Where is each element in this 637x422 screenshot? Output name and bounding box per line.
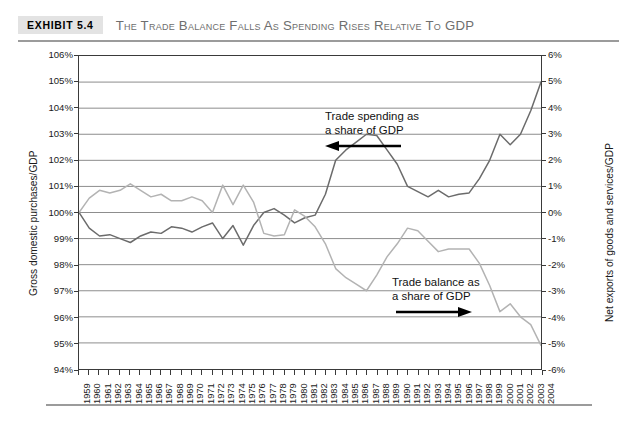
x-axis-tick-label: 1999 (494, 383, 504, 404)
x-axis-tick-label: 1991 (412, 383, 422, 404)
annotation-arrow-left-icon (323, 139, 403, 153)
x-axis-tick-label: 1979 (288, 383, 298, 404)
x-axis-tick-mark (108, 370, 109, 375)
x-axis-tick-mark (232, 370, 233, 375)
x-axis-tick-mark (253, 370, 254, 375)
x-axis-tick-label: 1976 (257, 383, 267, 404)
y-axis-left-tick-label: 94% (37, 365, 73, 375)
annotation-trade-balance-line2: a share of GDP (392, 290, 480, 304)
plot-frame (78, 55, 542, 370)
y-axis-right-tick-label: 0% (548, 208, 584, 218)
x-axis-tick-mark (356, 370, 357, 375)
x-axis-tick-mark (469, 370, 470, 375)
y-axis-right-tick-label: 2% (548, 155, 584, 165)
y-axis-right-tick-label: 6% (548, 50, 584, 60)
annotation-arrow-right-icon (394, 305, 474, 319)
x-axis-tick-mark (212, 370, 213, 375)
x-axis-tick-label: 1960 (92, 383, 102, 404)
y-axis-right-title: Net exports of goods and services/GDP (604, 143, 615, 322)
y-axis-left-tick-label: 97% (37, 286, 73, 296)
x-axis-tick-mark (170, 370, 171, 375)
y-axis-right-tick-mark (542, 55, 546, 56)
y-axis-right-tick-label: -4% (548, 313, 584, 323)
x-axis-tick-mark (459, 370, 460, 375)
y-axis-right-tick-mark (542, 291, 546, 292)
x-axis-tick-label: 1973 (226, 383, 236, 404)
x-axis-tick-label: 1966 (154, 383, 164, 404)
x-axis-tick-label: 1977 (268, 383, 278, 404)
x-axis-tick-mark (407, 370, 408, 375)
x-axis-tick-label: 1993 (433, 383, 443, 404)
x-axis-tick-label: 1990 (402, 383, 412, 404)
y-axis-right-tick-mark (542, 370, 546, 371)
x-axis-tick-mark (294, 370, 295, 375)
x-axis-tick-mark (531, 370, 532, 375)
y-axis-right-tick-mark (542, 317, 546, 318)
x-axis-tick-label: 1984 (340, 383, 350, 404)
x-axis-tick-label: 1962 (113, 383, 123, 404)
x-axis-tick-label: 1971 (206, 383, 216, 404)
y-axis-right-tick-label: -2% (548, 260, 584, 270)
x-axis-tick-mark (139, 370, 140, 375)
x-axis-tick-mark (119, 370, 120, 375)
x-axis-tick-label: 1967 (164, 383, 174, 404)
x-axis-tick-label: 1981 (309, 383, 319, 404)
x-axis-tick-label: 1998 (484, 383, 494, 404)
y-axis-left-tick-label: 101% (37, 181, 73, 191)
x-axis-tick-label: 1961 (103, 383, 113, 404)
exhibit-figure: EXHIBIT 5.4 The Trade Balance Falls as S… (0, 0, 637, 422)
x-axis-tick-mark (98, 370, 99, 375)
x-axis-tick-label: 1974 (237, 383, 247, 404)
x-axis-tick-label: 1982 (319, 383, 329, 404)
x-axis-tick-mark (129, 370, 130, 375)
y-axis-right-tick-mark (542, 160, 546, 161)
x-axis-tick-mark (150, 370, 151, 375)
x-axis-tick-label: 2004 (546, 383, 556, 404)
x-axis-tick-label: 1968 (175, 383, 185, 404)
y-axis-right-tick-mark (542, 238, 546, 239)
y-axis-left-tick-label: 98% (37, 260, 73, 270)
y-axis-left-title: Gross domestic purchases/GDP (28, 150, 39, 296)
x-axis-tick-label: 1972 (216, 383, 226, 404)
chart-area: Gross domestic purchases/GDP Net exports… (0, 0, 637, 422)
series-line-1 (79, 184, 541, 346)
x-axis-tick-mark (428, 370, 429, 375)
footer-divider (46, 404, 592, 406)
x-axis-tick-mark (418, 370, 419, 375)
y-axis-left-tick-label: 106% (37, 50, 73, 60)
x-axis-tick-mark (325, 370, 326, 375)
y-axis-right-tick-mark (542, 212, 546, 213)
x-axis-tick-label: 1985 (350, 383, 360, 404)
y-axis-left-tick-label: 104% (37, 103, 73, 113)
y-axis-right-tick-label: -5% (548, 339, 584, 349)
x-axis-tick-label: 1987 (371, 383, 381, 404)
x-axis-tick-mark (88, 370, 89, 375)
x-axis-tick-label: 2003 (536, 383, 546, 404)
x-axis-tick-label: 1965 (144, 383, 154, 404)
x-axis-tick-mark (500, 370, 501, 375)
x-axis-tick-mark (201, 370, 202, 375)
x-axis-tick-label: 1980 (299, 383, 309, 404)
annotation-trade-spending-line1: Trade spending as (325, 110, 419, 124)
x-axis-tick-mark (377, 370, 378, 375)
x-axis-tick-label: 1992 (422, 383, 432, 404)
x-axis-tick-label: 1995 (453, 383, 463, 404)
y-axis-right-tick-label: 3% (548, 129, 584, 139)
x-axis-tick-label: 1963 (123, 383, 133, 404)
x-axis-tick-mark (284, 370, 285, 375)
x-axis-tick-label: 1975 (247, 383, 257, 404)
x-axis-tick-mark (449, 370, 450, 375)
x-axis-tick-mark (263, 370, 264, 375)
x-axis-tick-mark (78, 370, 79, 375)
y-axis-right-tick-label: 1% (548, 181, 584, 191)
x-axis-tick-label: 1964 (134, 383, 144, 404)
x-axis-tick-label: 1978 (278, 383, 288, 404)
y-axis-left-tick-label: 103% (37, 129, 73, 139)
x-axis-tick-label: 1994 (443, 383, 453, 404)
y-axis-left-tick-label: 96% (37, 313, 73, 323)
x-axis-tick-label: 1959 (82, 383, 92, 404)
y-axis-right-tick-mark (542, 186, 546, 187)
x-axis-tick-mark (315, 370, 316, 375)
y-axis-right-tick-label: -3% (548, 286, 584, 296)
data-series-lines (79, 56, 541, 369)
